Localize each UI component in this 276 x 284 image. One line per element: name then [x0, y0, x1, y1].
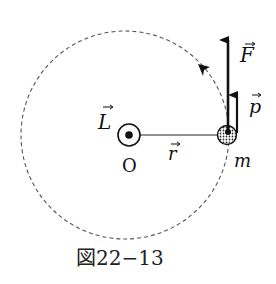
label-mass: m — [234, 150, 251, 171]
svg-text:L: L — [97, 110, 111, 134]
label-momentum: p — [249, 93, 261, 117]
svg-text:F: F — [239, 43, 255, 67]
label-origin: O — [122, 155, 137, 176]
label-position: r — [168, 142, 180, 164]
svg-text:p: p — [249, 95, 261, 117]
circular-motion-diagram: F p L O r m 図22−13 — [0, 0, 276, 284]
figure-caption: 図22−13 — [76, 246, 164, 270]
label-angular-momentum: L — [97, 105, 113, 134]
orbit-direction-arrow-icon — [198, 64, 210, 76]
label-force: F — [239, 42, 255, 67]
angular-momentum-out-of-page-icon — [118, 124, 140, 146]
svg-text:r: r — [168, 143, 178, 164]
